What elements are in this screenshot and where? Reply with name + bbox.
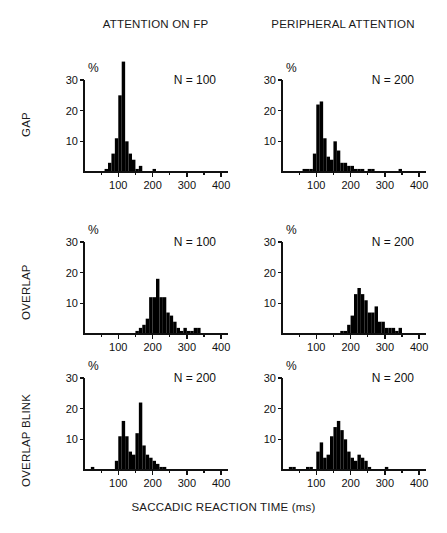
y-tick-label: 20: [66, 403, 78, 415]
column-header-peripheral-attention: PERIPHERAL ATTENTION: [243, 18, 443, 30]
histogram-bar: [115, 138, 118, 172]
histogram-bar: [146, 319, 149, 334]
histogram-bar: [327, 455, 330, 470]
histogram-bar: [327, 157, 330, 172]
histogram-bar: [347, 325, 350, 334]
histogram-bar: [132, 455, 135, 470]
x-tick-label: 100: [109, 477, 127, 488]
histogram-bar: [381, 322, 384, 334]
histogram-bar: [108, 163, 111, 172]
histogram-bar: [364, 461, 367, 470]
x-tick-label: 100: [109, 179, 127, 190]
x-tick-label: 200: [143, 477, 161, 488]
histogram-bar: [347, 166, 350, 172]
x-tick-label: 200: [341, 477, 359, 488]
histogram-bar: [122, 62, 125, 172]
histogram-bar: [132, 160, 135, 172]
saccadic-reaction-time-figure: ATTENTION ON FP PERIPHERAL ATTENTION GAP…: [0, 0, 447, 533]
x-tick-label: 400: [212, 179, 230, 190]
histogram-svg: 102030100200300400%N = 200: [52, 348, 232, 488]
histogram-bar: [361, 458, 364, 470]
histogram-svg: 102030100200300400%N = 200: [250, 212, 430, 352]
y-tick-label: 20: [264, 267, 276, 279]
histogram-bar: [368, 313, 371, 334]
y-axis-unit-label: %: [88, 61, 99, 75]
histogram-bar: [357, 455, 360, 470]
histogram-bar: [149, 297, 152, 334]
histogram-bar: [194, 328, 197, 334]
x-tick-label: 200: [143, 179, 161, 190]
histogram-bar: [149, 458, 152, 470]
histogram-bar: [142, 325, 145, 334]
sample-size-annotation: N = 100: [174, 73, 217, 87]
histogram-bar: [129, 452, 132, 470]
x-tick-label: 300: [376, 477, 394, 488]
histogram-bar: [316, 105, 319, 172]
histogram-bar: [361, 294, 364, 334]
y-tick-label: 30: [66, 372, 78, 384]
histogram-bar: [351, 458, 354, 470]
histogram-bar: [166, 313, 169, 334]
x-tick-label: 300: [178, 477, 196, 488]
histogram-bar: [173, 322, 176, 334]
sample-size-annotation: N = 200: [372, 371, 415, 385]
sample-size-annotation: N = 200: [372, 73, 415, 87]
y-tick-label: 30: [264, 236, 276, 248]
histogram-bar: [344, 163, 347, 172]
histogram-bar: [183, 328, 186, 334]
histogram-bar: [170, 316, 173, 334]
histogram-bar: [354, 461, 357, 470]
histogram-bar: [337, 151, 340, 172]
histogram-bar: [323, 458, 326, 470]
row-label-overlap-blink: OVERLAP BLINK: [20, 394, 32, 487]
y-tick-label: 30: [66, 74, 78, 86]
histogram-bar: [399, 328, 402, 334]
histogram-bar: [340, 163, 343, 172]
histogram-bar: [177, 328, 180, 334]
bars-group: [135, 279, 200, 334]
histogram-bar: [197, 328, 200, 334]
histogram-panel-gap-peripheral-attention: 102030100200300400%N = 200: [250, 50, 430, 190]
y-tick-label: 10: [264, 433, 276, 445]
histogram-bar: [371, 313, 374, 334]
x-tick-label: 400: [410, 477, 428, 488]
column-header-attention-on-fp: ATTENTION ON FP: [63, 18, 248, 30]
histogram-bar: [351, 166, 354, 172]
y-axis-unit-label: %: [286, 359, 297, 373]
histogram-bar: [388, 328, 391, 334]
histogram-bar: [320, 101, 323, 172]
histogram-bar: [159, 297, 162, 334]
histogram-bar: [364, 300, 367, 334]
histogram-bar: [354, 294, 357, 334]
histogram-bar: [125, 141, 128, 172]
histogram-bar: [122, 421, 125, 470]
histogram-bar: [323, 138, 326, 172]
histogram-bar: [115, 461, 118, 470]
histogram-bar: [111, 154, 114, 172]
histogram-bar: [333, 427, 336, 470]
histogram-panel-overlap-blink-peripheral-attention: 102030100200300400%N = 200: [250, 348, 430, 488]
histogram-bar: [135, 433, 138, 470]
histogram-bar: [375, 306, 378, 334]
y-tick-label: 10: [66, 433, 78, 445]
bars-group: [340, 288, 402, 334]
histogram-svg: 102030100200300400%N = 100: [52, 212, 232, 352]
histogram-bar: [320, 442, 323, 470]
x-tick-label: 300: [376, 179, 394, 190]
histogram-bar: [125, 436, 128, 470]
bars-group: [91, 403, 166, 470]
histogram-bar: [330, 160, 333, 172]
y-tick-label: 30: [264, 372, 276, 384]
axis-lines: [84, 378, 228, 470]
histogram-bar: [337, 421, 340, 470]
bars-group: [303, 101, 402, 172]
y-axis-unit-label: %: [88, 223, 99, 237]
row-label-overlap: OVERLAP: [20, 264, 32, 320]
sample-size-annotation: N = 200: [174, 371, 217, 385]
y-tick-label: 10: [66, 135, 78, 147]
x-axis-title: SACCADIC REACTION TIME (ms): [0, 501, 447, 513]
y-axis-unit-label: %: [286, 223, 297, 237]
histogram-bar: [357, 288, 360, 334]
x-tick-label: 100: [307, 179, 325, 190]
histogram-bar: [118, 436, 121, 470]
